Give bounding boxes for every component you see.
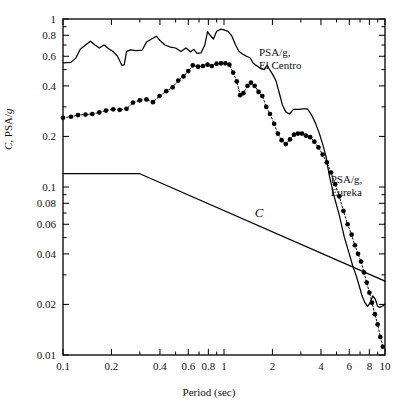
x-tick-label: 4 bbox=[318, 360, 324, 372]
data-point bbox=[283, 142, 288, 147]
y-tick-label: 0.02 bbox=[37, 298, 56, 310]
data-point bbox=[353, 243, 358, 248]
data-point bbox=[190, 63, 195, 68]
x-tick-label: 0.1 bbox=[56, 360, 70, 372]
figure-panel: C, PSA/g Period (sec) 0.10.20.40.60.8124… bbox=[0, 0, 418, 411]
data-point bbox=[308, 135, 313, 140]
data-point bbox=[252, 84, 257, 89]
data-point bbox=[279, 138, 284, 143]
data-point bbox=[234, 79, 239, 84]
x-tick-label: 8 bbox=[367, 360, 373, 372]
data-point bbox=[373, 312, 378, 317]
x-tick-label: 6 bbox=[347, 360, 353, 372]
data-point bbox=[90, 112, 95, 117]
data-point bbox=[196, 64, 201, 69]
data-point bbox=[231, 70, 236, 75]
data-point bbox=[117, 107, 122, 112]
series-line bbox=[63, 63, 383, 346]
data-point bbox=[76, 113, 81, 118]
x-tick-label: 0.8 bbox=[202, 360, 216, 372]
x-tick-label: 1 bbox=[221, 360, 227, 372]
y-tick-label: 0.1 bbox=[42, 181, 56, 193]
eureka-label: PSA/g,Eureka bbox=[331, 173, 363, 198]
data-point bbox=[249, 80, 254, 85]
x-axis-label: Period (sec) bbox=[0, 386, 418, 398]
y-tick-label: 0.04 bbox=[37, 248, 57, 260]
data-point bbox=[375, 322, 380, 327]
data-point bbox=[268, 112, 273, 117]
data-point bbox=[381, 344, 386, 349]
data-point bbox=[356, 252, 361, 257]
y-tick-label: 0.8 bbox=[42, 29, 56, 41]
data-point bbox=[296, 131, 301, 136]
data-point bbox=[316, 145, 321, 150]
data-point bbox=[292, 132, 297, 137]
data-point bbox=[124, 106, 129, 111]
chart-canvas: 0.10.20.40.60.812468100.010.020.040.060.… bbox=[0, 0, 418, 411]
data-point bbox=[245, 84, 250, 89]
y-tick-label: 0.08 bbox=[37, 197, 57, 209]
data-point bbox=[144, 97, 149, 102]
x-tick-label: 0.4 bbox=[153, 360, 167, 372]
y-tick-label: 0.6 bbox=[42, 50, 56, 62]
y-tick-label: 0.01 bbox=[37, 349, 56, 361]
data-point bbox=[170, 85, 175, 90]
data-point bbox=[137, 98, 142, 103]
data-point bbox=[345, 222, 350, 227]
data-point bbox=[181, 74, 186, 79]
data-point bbox=[201, 64, 206, 69]
data-point bbox=[97, 110, 102, 115]
y-tick-label: 0.2 bbox=[42, 130, 56, 142]
eureka-label-line2: Eureka bbox=[331, 186, 362, 198]
data-point bbox=[186, 69, 191, 74]
x-tick-label: 0.6 bbox=[181, 360, 195, 372]
data-point bbox=[364, 280, 369, 285]
data-point bbox=[370, 300, 375, 305]
data-point bbox=[288, 137, 293, 142]
data-point bbox=[157, 94, 162, 99]
data-point bbox=[260, 94, 265, 99]
data-point bbox=[131, 100, 136, 105]
el-centro-label: PSA/g,El Centro bbox=[259, 46, 302, 71]
data-point bbox=[69, 114, 74, 119]
data-point bbox=[61, 116, 66, 121]
data-point bbox=[164, 89, 169, 94]
el-centro-label-line2: El Centro bbox=[259, 59, 302, 71]
data-point bbox=[304, 133, 309, 138]
series-psa-g-el-centro bbox=[63, 29, 385, 307]
data-point bbox=[312, 139, 317, 144]
data-point bbox=[324, 160, 329, 165]
y-tick-label: 0.06 bbox=[37, 218, 57, 230]
y-axis-label: C, PSA/g bbox=[2, 30, 14, 150]
x-tick-label: 2 bbox=[270, 360, 276, 372]
data-point bbox=[256, 90, 261, 95]
data-point bbox=[367, 290, 372, 295]
data-point bbox=[111, 107, 116, 112]
data-point bbox=[223, 61, 228, 66]
data-point bbox=[214, 61, 219, 66]
data-point bbox=[378, 335, 383, 340]
data-point bbox=[176, 78, 181, 83]
data-point bbox=[300, 131, 305, 136]
data-point bbox=[320, 152, 325, 157]
series-line bbox=[63, 29, 385, 307]
data-point bbox=[241, 91, 246, 96]
y-tick-label: 1 bbox=[51, 13, 57, 25]
el-centro-label-line1: PSA/g, bbox=[259, 46, 291, 58]
x-tick-label: 10 bbox=[380, 360, 392, 372]
data-point bbox=[272, 121, 277, 126]
data-point bbox=[341, 209, 346, 214]
data-point bbox=[359, 259, 364, 264]
data-point bbox=[264, 104, 269, 109]
data-point bbox=[349, 232, 354, 237]
code-curve-label: C bbox=[255, 205, 264, 220]
data-point bbox=[205, 62, 210, 67]
y-tick-label: 0.4 bbox=[42, 80, 56, 92]
x-tick-label: 0.2 bbox=[105, 360, 119, 372]
eureka-label-line1: PSA/g, bbox=[331, 173, 363, 185]
data-point bbox=[209, 64, 214, 69]
data-point bbox=[227, 62, 232, 67]
data-point bbox=[151, 100, 156, 105]
data-point bbox=[219, 61, 224, 66]
data-point bbox=[83, 112, 88, 117]
